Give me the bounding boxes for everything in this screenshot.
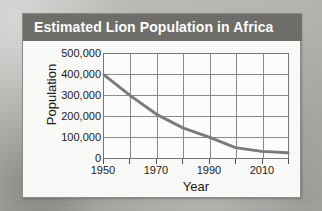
- x-tick-label: 2010: [240, 164, 284, 176]
- page-background: Estimated Lion Population in Africa Popu…: [0, 0, 322, 211]
- chart-card: Estimated Lion Population in Africa Popu…: [22, 13, 301, 198]
- plot-area: [103, 53, 289, 159]
- y-axis-tick-labels: 500,000 400,000 300,000 200,000 100,000 …: [45, 41, 101, 172]
- y-tick-label: 500,000: [45, 48, 101, 59]
- x-axis-title: Year: [103, 179, 289, 194]
- chart-title-bar: Estimated Lion Population in Africa: [23, 14, 302, 41]
- y-tick-label: 100,000: [45, 132, 101, 143]
- y-tick-label: 300,000: [45, 90, 101, 101]
- chart-area: Population 500,000 400,000 300,000 200,0…: [23, 41, 302, 199]
- y-tick-label: 400,000: [45, 69, 101, 80]
- x-tick-label: 1990: [187, 164, 231, 176]
- x-tick-label: 1950: [81, 164, 125, 176]
- y-tick-label: 0: [45, 153, 101, 164]
- x-axis-tick-labels: 1950 1970 1990 2010: [23, 164, 302, 178]
- data-series-line: [104, 54, 288, 158]
- y-tick-label: 200,000: [45, 111, 101, 122]
- x-tick-label: 1970: [134, 164, 178, 176]
- page-title: Estimated Lion Population in Africa: [34, 19, 273, 35]
